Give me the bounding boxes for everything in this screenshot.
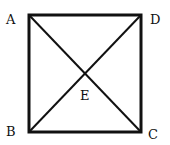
square-diagram: A D B C E (0, 0, 170, 145)
label-a: A (5, 12, 16, 27)
label-e: E (80, 88, 90, 103)
label-b: B (6, 124, 16, 139)
label-c: C (148, 127, 158, 142)
label-d: D (150, 12, 160, 27)
